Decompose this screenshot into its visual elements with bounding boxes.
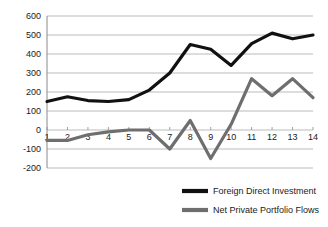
chart-legend: Foreign Direct InvestmentNet Private Por… — [182, 186, 320, 215]
y-tick-label: 400 — [26, 49, 41, 59]
legend-label: Foreign Direct Investment — [213, 186, 317, 196]
gridlines — [47, 16, 313, 168]
x-tick-label: 9 — [208, 132, 213, 142]
series-line-2 — [47, 79, 313, 159]
x-tick-label: 10 — [226, 132, 236, 142]
y-axis-tick-labels: 6005004003002001000-100-200 — [23, 11, 41, 173]
x-tick-label: 8 — [188, 132, 193, 142]
y-tick-label: 500 — [26, 30, 41, 40]
x-tick-label: 5 — [126, 132, 131, 142]
series-line-1 — [47, 33, 313, 101]
y-tick-label: 0 — [36, 125, 41, 135]
y-tick-label: -200 — [23, 163, 41, 173]
y-tick-label: 300 — [26, 68, 41, 78]
x-tick-label: 12 — [267, 132, 277, 142]
x-tick-label: 13 — [288, 132, 298, 142]
x-tick-label: 7 — [167, 132, 172, 142]
y-tick-label: -100 — [23, 144, 41, 154]
x-tick-label: 11 — [247, 132, 256, 142]
line-chart: 6005004003002001000-100-200 123456789101… — [0, 0, 328, 227]
y-tick-label: 200 — [26, 87, 41, 97]
legend-label: Net Private Portfolio Flows — [213, 205, 320, 215]
x-tick-label: 14 — [308, 132, 318, 142]
axis-tickmarks — [47, 127, 313, 130]
y-tick-label: 600 — [26, 11, 41, 21]
chart-container: 6005004003002001000-100-200 123456789101… — [0, 0, 328, 227]
y-tick-label: 100 — [26, 106, 41, 116]
